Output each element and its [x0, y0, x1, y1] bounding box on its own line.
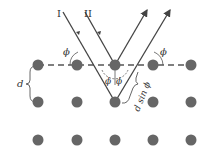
spacing-label: d — [17, 78, 23, 89]
angle-center-right-label: ϕ — [116, 76, 122, 86]
angle-left-label: ϕ — [63, 46, 70, 57]
spacing-brace — [26, 66, 36, 102]
angle-right-label: ϕ — [160, 46, 167, 57]
beam-I-label: I — [57, 8, 61, 19]
bragg-diagram: I II ϕ ϕ ϕ ϕ d d sin ϕ — [0, 0, 212, 155]
beam-II-label: II — [84, 8, 92, 19]
angle-center-left-label: ϕ — [105, 76, 111, 86]
lattice-atoms — [33, 60, 197, 146]
beam-I-incident — [63, 12, 115, 102]
